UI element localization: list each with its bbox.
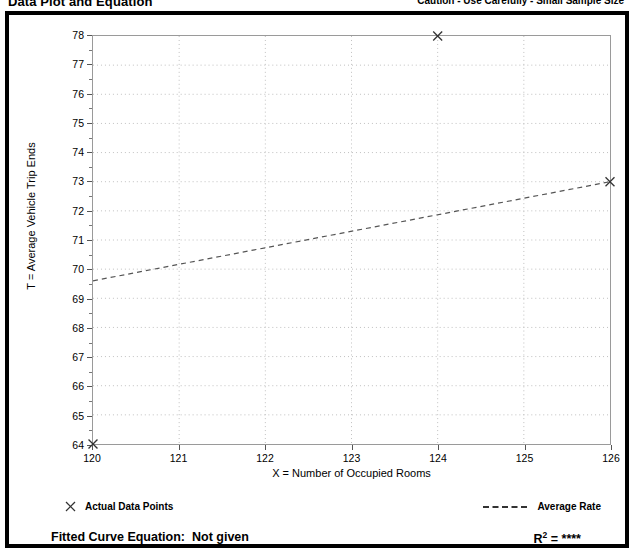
equation-row: Fitted Curve Equation: Not given R2 = **…	[9, 530, 627, 553]
dashed-line-icon	[483, 506, 527, 508]
legend-label-actual-data-points: Actual Data Points	[85, 501, 173, 512]
report-frame: T = Average Vehicle Trip Ends 6465666768…	[5, 11, 629, 548]
y-tick-label: 71	[58, 235, 84, 245]
y-tick-label: 68	[58, 323, 84, 333]
plot-area	[92, 35, 611, 445]
fitted-equation-value: Not given	[192, 530, 249, 544]
x-tick-mark	[438, 445, 439, 450]
fitted-equation-label: Fitted Curve Equation:	[51, 530, 185, 544]
y-tick-label: 66	[58, 381, 84, 391]
y-tick-label: 74	[58, 147, 84, 157]
y-tick-label: 69	[58, 294, 84, 304]
x-tick-label: 120	[72, 453, 112, 464]
x-tick-label: 123	[332, 453, 372, 464]
x-cross-icon	[65, 501, 76, 512]
y-tick-label: 64	[58, 440, 84, 450]
r-squared-label: R	[534, 532, 543, 546]
y-axis-ticks: 646566676869707172737475767778	[62, 35, 92, 445]
y-axis-title: T = Average Vehicle Trip Ends	[25, 56, 37, 376]
y-tick-label: 78	[58, 30, 84, 40]
x-axis-title: X = Number of Occupied Rooms	[92, 467, 611, 479]
y-tick-label: 65	[58, 411, 84, 421]
y-tick-label: 77	[58, 59, 84, 69]
x-tick-mark	[265, 445, 266, 450]
legend-item-actual-data-points: Actual Data Points	[65, 501, 173, 512]
x-tick-label: 126	[591, 453, 631, 464]
y-tick-label: 76	[58, 89, 84, 99]
x-tick-label: 122	[245, 453, 285, 464]
x-tick-label: 125	[505, 453, 545, 464]
chart-legend: Actual Data Points Average Rate	[9, 501, 627, 527]
x-tick-label: 121	[159, 453, 199, 464]
page-title: Data Plot and Equation	[8, 0, 152, 9]
legend-label-average-rate: Average Rate	[537, 501, 601, 512]
chart-plot-block: T = Average Vehicle Trip Ends 6465666768…	[9, 15, 627, 495]
x-tick-mark	[525, 445, 526, 450]
r-squared-equals: =	[547, 532, 561, 546]
r-squared-number: ****	[562, 532, 581, 546]
x-tick-mark	[179, 445, 180, 450]
x-tick-mark	[611, 445, 612, 450]
y-tick-label: 75	[58, 118, 84, 128]
y-tick-label: 67	[58, 352, 84, 362]
caution-note: Caution - Use Carefully - Small Sample S…	[417, 0, 624, 6]
y-tick-label: 70	[58, 264, 84, 274]
r-squared-value: R2 = ****	[534, 530, 581, 546]
y-tick-label: 73	[58, 176, 84, 186]
fitted-curve-equation: Fitted Curve Equation: Not given	[51, 530, 249, 544]
report-frame-inner: T = Average Vehicle Trip Ends 6465666768…	[8, 14, 626, 545]
x-tick-mark	[352, 445, 353, 450]
data-series-layer	[93, 36, 610, 444]
x-tick-mark	[92, 445, 93, 450]
legend-item-average-rate: Average Rate	[483, 501, 601, 512]
y-tick-label: 72	[58, 206, 84, 216]
x-tick-label: 124	[418, 453, 458, 464]
